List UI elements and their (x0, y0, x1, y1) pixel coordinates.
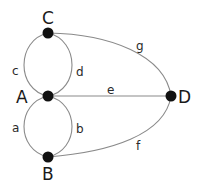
graph-diagram: C A B D c d a b e g f (0, 0, 202, 195)
node-label-d: D (178, 87, 191, 107)
node-a (43, 91, 54, 102)
edge-label-b: b (76, 122, 84, 136)
edge-d (48, 33, 72, 96)
node-d (166, 91, 177, 102)
edge-label-e: e (107, 83, 114, 97)
node-c (43, 28, 54, 39)
edge-f (48, 96, 171, 157)
node-label-a: A (16, 87, 28, 107)
node-label-c: C (42, 8, 54, 28)
edge-label-f: f (136, 139, 141, 153)
edge-label-g: g (136, 39, 144, 53)
node-b (43, 152, 54, 163)
edge-label-a: a (12, 121, 19, 135)
node-label-b: B (42, 164, 54, 184)
edge-label-d: d (76, 65, 84, 79)
edge-label-c: c (12, 64, 19, 78)
edge-b (48, 96, 72, 157)
